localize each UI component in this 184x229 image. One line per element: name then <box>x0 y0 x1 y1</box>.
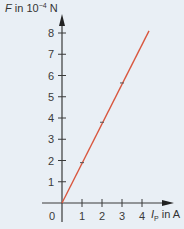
y-tick-label: 3 <box>48 133 54 145</box>
y-tick-label: 7 <box>48 48 54 60</box>
y-tick-label: 8 <box>48 27 54 39</box>
y-tick-label: 6 <box>48 70 54 82</box>
x-tick-label: 4 <box>139 210 145 222</box>
y-tick-label: 2 <box>48 155 54 167</box>
x-axis-arrow-icon <box>162 200 174 206</box>
x-tick-label: 1 <box>79 210 85 222</box>
chart-canvas: 1234567801234 <box>0 0 184 229</box>
x-tick-label: 2 <box>99 210 105 222</box>
y-tick-label: 5 <box>48 91 54 103</box>
x-tick-label: 3 <box>119 210 125 222</box>
data-line <box>62 31 149 203</box>
y-tick-label: 4 <box>48 112 54 124</box>
y-tick-label: 1 <box>48 176 54 188</box>
y-axis-arrow-icon <box>59 14 65 26</box>
origin-label: 0 <box>49 210 55 222</box>
